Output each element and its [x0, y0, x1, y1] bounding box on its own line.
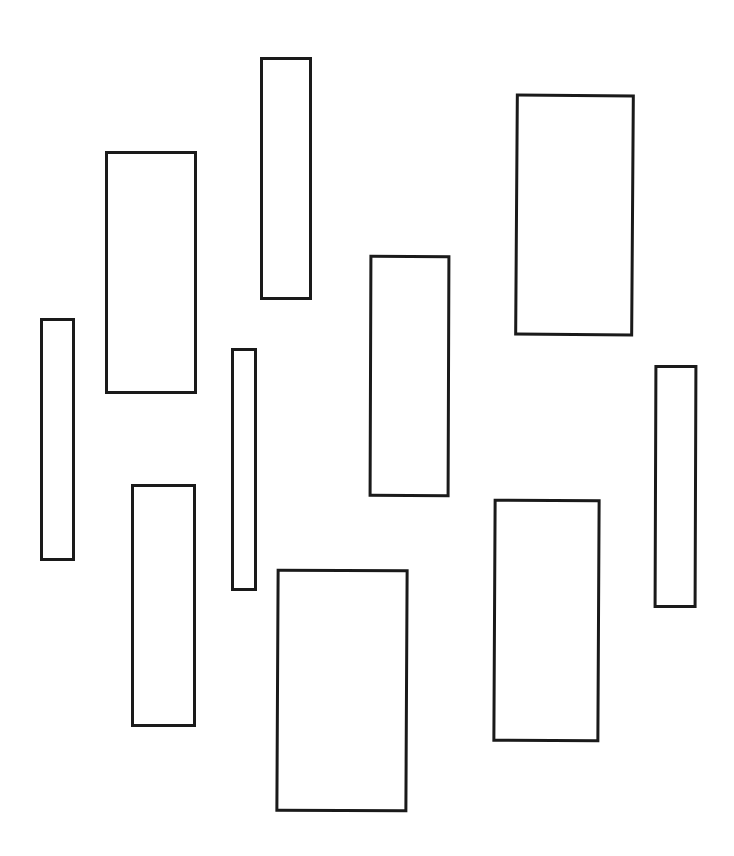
rectangle-outline — [105, 151, 197, 394]
rectangle-outline — [514, 94, 635, 337]
rectangle-outline — [231, 348, 257, 591]
rectangle-outline — [260, 57, 312, 300]
rectangle-outline — [492, 499, 600, 743]
diagram-canvas — [0, 0, 734, 856]
rectangle-outline — [40, 318, 75, 561]
rectangle-outline — [275, 569, 408, 813]
rectangle-outline — [131, 484, 196, 727]
rectangle-outline — [654, 365, 698, 608]
rectangle-outline — [369, 255, 451, 497]
